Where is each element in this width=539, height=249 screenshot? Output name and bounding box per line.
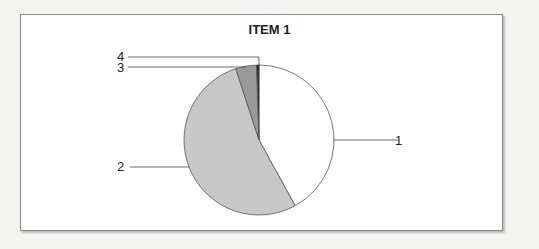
pie-chart: 4 3 1 2 (0, 0, 539, 249)
slice-label-3: 3 (117, 60, 124, 75)
slice-label-2: 2 (117, 159, 124, 174)
leader-line-4 (128, 57, 259, 66)
slice-label-1: 1 (395, 133, 402, 148)
